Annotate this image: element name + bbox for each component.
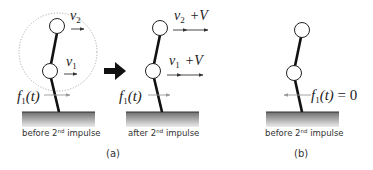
panel-a-before: v2 v1 f1(t) before 2nd impulse	[17, 8, 101, 138]
force-label: f1(t) = 0	[311, 87, 357, 105]
upper-link	[295, 37, 301, 66]
ground	[126, 112, 199, 127]
v1-label: v1	[66, 54, 77, 71]
subfigure-label-b: (b)	[294, 148, 308, 159]
panel-b-before: f1(t) = 0 before 2nd impulse	[265, 23, 357, 139]
diagram-canvas: v2 v1 f1(t) before 2nd impulse v2+V v1+V…	[0, 0, 373, 170]
ground	[266, 112, 339, 127]
force-label: f1(t)	[17, 88, 40, 106]
v2-label: v2	[70, 8, 81, 25]
caption-a-before: before 2nd impulse	[22, 128, 101, 138]
joint-lower	[287, 66, 302, 81]
v1-label: v1+V	[169, 53, 204, 70]
joint-lower	[43, 64, 58, 79]
joint-upper	[295, 23, 310, 38]
panel-a-after: v2+V v1+V f1(t) after 2nd impulse	[119, 8, 209, 138]
transition-arrow-icon	[104, 62, 126, 80]
subfigure-label-a: (a)	[106, 148, 120, 159]
upper-link	[51, 33, 57, 64]
upper-link	[154, 35, 160, 64]
ground	[22, 112, 95, 127]
v2-label: v2+V	[174, 8, 209, 25]
caption-a-after: after 2nd impulse	[128, 128, 199, 138]
joint-lower	[146, 64, 161, 79]
lower-link	[295, 80, 302, 112]
joint-upper	[50, 19, 65, 34]
force-label: f1(t)	[119, 88, 142, 106]
joint-upper	[153, 21, 168, 36]
caption-b-before: before 2nd impulse	[265, 128, 344, 138]
